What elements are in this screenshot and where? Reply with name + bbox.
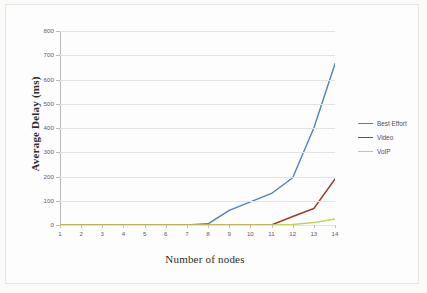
x-tick-mark xyxy=(102,225,103,228)
legend-item[interactable]: Video xyxy=(358,130,426,144)
gridline xyxy=(60,201,335,202)
x-tick-label: 1 xyxy=(50,230,70,237)
y-tick-label-group: 0100200300400500600700800 xyxy=(26,0,54,293)
legend-label: VoIP xyxy=(377,148,391,155)
y-tick-mark xyxy=(56,128,60,129)
gridline xyxy=(60,152,335,153)
x-tick-mark xyxy=(272,225,273,228)
y-tick-mark xyxy=(56,31,60,32)
x-tick-label: 7 xyxy=(177,230,197,237)
x-tick-mark xyxy=(81,225,82,228)
legend-label: Best Effort xyxy=(377,120,407,127)
gridline xyxy=(60,31,335,32)
gridline xyxy=(60,104,335,105)
gridline xyxy=(60,177,335,178)
gridline xyxy=(60,225,335,226)
legend-label: Video xyxy=(377,134,393,141)
x-tick-mark xyxy=(187,225,188,228)
y-tick-mark xyxy=(56,152,60,153)
legend-swatch-icon xyxy=(358,123,373,124)
x-tick-mark xyxy=(60,225,61,228)
y-tick-label: 100 xyxy=(30,197,54,204)
x-tick-mark xyxy=(208,225,209,228)
x-tick-label: 11 xyxy=(262,230,282,237)
x-tick-label: 6 xyxy=(156,230,176,237)
legend-item[interactable]: Best Effort xyxy=(358,116,426,130)
y-tick-label: 600 xyxy=(30,76,54,83)
x-tick-mark xyxy=(293,225,294,228)
x-tick-label: 13 xyxy=(304,230,324,237)
gridline xyxy=(60,128,335,129)
y-tick-mark xyxy=(56,104,60,105)
y-tick-label: 200 xyxy=(30,173,54,180)
x-tick-label: 4 xyxy=(113,230,133,237)
gridline xyxy=(60,55,335,56)
y-tick-label: 500 xyxy=(30,100,54,107)
y-tick-mark xyxy=(56,201,60,202)
gridline xyxy=(60,80,335,81)
legend-swatch-icon xyxy=(358,151,373,152)
plot-area xyxy=(60,31,335,225)
legend-swatch-icon xyxy=(358,137,373,138)
x-tick-mark xyxy=(314,225,315,228)
x-axis-title: Number of nodes xyxy=(60,253,350,265)
x-tick-mark xyxy=(250,225,251,228)
x-tick-label: 3 xyxy=(92,230,112,237)
x-tick-mark xyxy=(123,225,124,228)
y-tick-label: 700 xyxy=(30,51,54,58)
y-tick-label: 300 xyxy=(30,148,54,155)
x-tick-label: 14 xyxy=(325,230,345,237)
chart-page: Average Delay (ms) Number of nodes 01002… xyxy=(0,0,427,293)
y-tick-label: 400 xyxy=(30,124,54,131)
y-tick-mark xyxy=(56,55,60,56)
x-tick-label: 12 xyxy=(283,230,303,237)
x-tick-label: 2 xyxy=(71,230,91,237)
series-line-video xyxy=(60,179,335,225)
y-tick-label: 800 xyxy=(30,27,54,34)
x-tick-mark xyxy=(166,225,167,228)
x-tick-mark xyxy=(229,225,230,228)
y-tick-label: 0 xyxy=(30,221,54,228)
x-tick-label: 5 xyxy=(135,230,155,237)
x-tick-label: 9 xyxy=(219,230,239,237)
legend-item[interactable]: VoIP xyxy=(358,144,426,158)
y-tick-mark xyxy=(56,80,60,81)
x-tick-label: 8 xyxy=(198,230,218,237)
x-tick-label: 10 xyxy=(240,230,260,237)
y-tick-mark xyxy=(56,225,60,226)
x-tick-mark xyxy=(145,225,146,228)
y-tick-mark xyxy=(56,177,60,178)
x-tick-mark xyxy=(335,225,336,228)
line-chart-figure: Average Delay (ms) Number of nodes 01002… xyxy=(0,0,427,293)
chart-legend: Best EffortVideoVoIP xyxy=(358,116,426,158)
